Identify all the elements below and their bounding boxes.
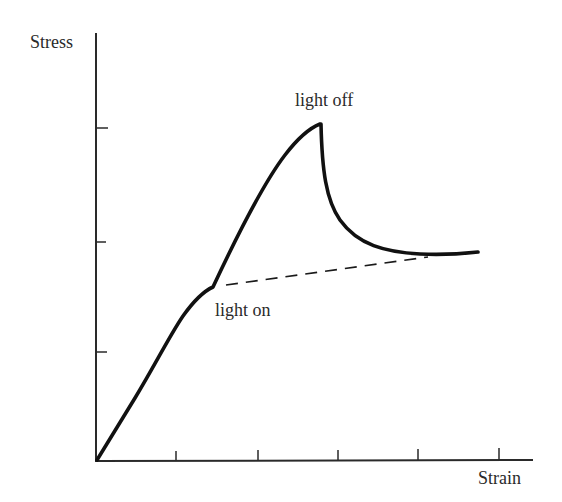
dashed-extrapolation-line xyxy=(226,257,428,285)
light-on-annotation: light on xyxy=(215,300,271,320)
stress-strain-curve xyxy=(97,124,478,460)
x-axis xyxy=(95,460,533,461)
stress-strain-chart: Stress Strain light on light off xyxy=(0,0,562,502)
light-off-annotation: light off xyxy=(295,90,353,110)
y-ticks xyxy=(96,128,108,352)
x-axis-label: Strain xyxy=(478,468,521,488)
y-axis-label: Stress xyxy=(30,32,73,52)
x-ticks xyxy=(176,448,499,461)
